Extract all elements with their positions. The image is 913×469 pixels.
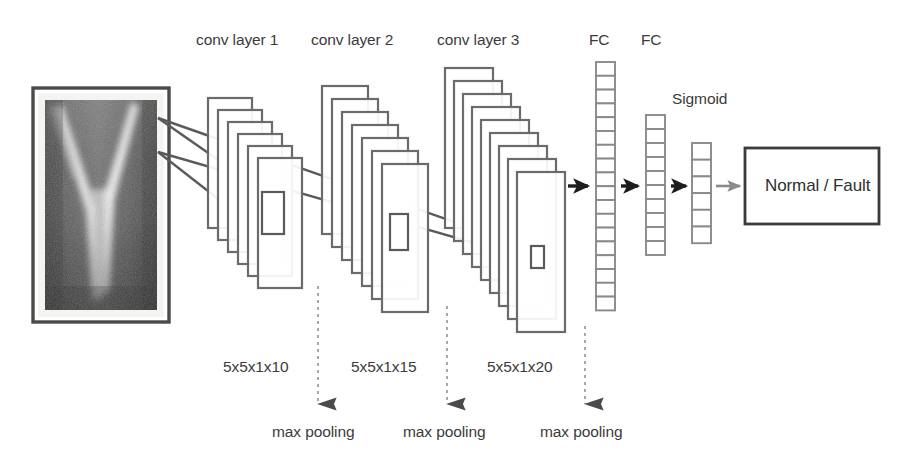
fc-layer-1-label: FC (589, 31, 609, 49)
max-pooling-label-1: max pooling (272, 423, 354, 441)
cnn-architecture-diagram: conv layer 1 conv layer 2 conv layer 3 F… (0, 0, 913, 469)
sigmoid-label: Sigmoid (672, 90, 727, 108)
output-label: Normal / Fault (765, 176, 870, 196)
conv-layer-2-kernel-label: 5x5x1x15 (351, 358, 417, 376)
input-image-group (33, 88, 169, 322)
conv-layer-3-stack (445, 68, 565, 332)
fc-layer-1-column (596, 62, 615, 310)
conv-layer-2-stack (322, 86, 428, 312)
conv-layer-3-label: conv layer 3 (437, 31, 519, 49)
input-image-picture (45, 100, 157, 310)
fc-layer-2-column (646, 115, 665, 255)
conv-layer-3-kernel-label: 5x5x1x20 (487, 358, 553, 376)
conv-layer-1-stack (208, 98, 302, 288)
conv-layer-2-label: conv layer 2 (311, 31, 393, 49)
conv-layer-1-label: conv layer 1 (196, 31, 278, 49)
sigmoid-layer-column (692, 143, 711, 243)
fc-layer-2-label: FC (641, 31, 661, 49)
diagram-canvas (0, 0, 913, 469)
max-pooling-label-2: max pooling (403, 423, 485, 441)
max-pooling-label-3: max pooling (540, 423, 622, 441)
conv-layer-1-kernel-label: 5x5x1x10 (223, 358, 289, 376)
